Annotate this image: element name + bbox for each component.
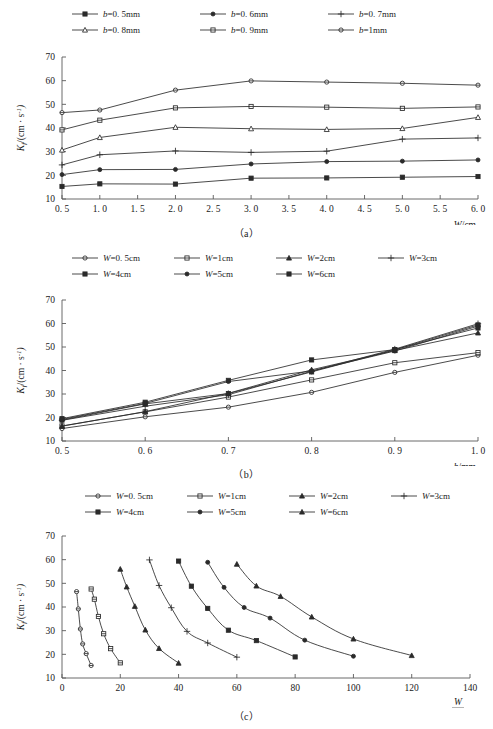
marker-open-triangle (476, 115, 481, 120)
x-axis-title: Wb (452, 697, 464, 708)
marker-filled-triangle (234, 562, 239, 567)
x-tick-label: 1. 0 (471, 446, 486, 456)
series-line (208, 562, 354, 656)
data-series (60, 158, 480, 177)
caption-b: （b） (0, 466, 493, 481)
data-series (60, 326, 480, 421)
marker-filled-circle (310, 369, 314, 373)
data-series (60, 79, 480, 115)
caption-a: （a） (0, 225, 493, 240)
legend-item[interactable]: W=5cm (174, 269, 233, 279)
x-tick-label: 0. 7 (221, 446, 236, 456)
y-tick-label: 30 (46, 389, 56, 399)
x-tick-label: 0. 8 (304, 446, 319, 456)
x-tick-label: 120 (405, 683, 420, 693)
marker-filled-circle (198, 510, 202, 514)
data-series (74, 590, 93, 668)
legend-item[interactable]: W=4cm (85, 507, 144, 517)
marker-filled-triangle (309, 614, 314, 619)
y-tick-label: 60 (46, 555, 56, 565)
legend-item[interactable]: b=0. 9mm (200, 25, 268, 35)
y-tick-label: 40 (46, 366, 56, 376)
x-tick-label: 3. 5 (282, 204, 297, 214)
legend-item[interactable]: b=0. 8mm (72, 25, 140, 35)
legend-label: W=3cm (409, 253, 437, 263)
chart-c-svg: W=0. 5cmW=1cmW=2cmW=3cmW=4cmW=5cmW=6cm10… (0, 488, 493, 708)
legend-label: W=4cm (103, 269, 131, 279)
y-tick-label: 20 (46, 171, 56, 181)
legend-label: W=2cm (307, 253, 335, 263)
marker-filled-circle (325, 160, 329, 164)
legend-item[interactable]: W=6cm (276, 269, 335, 279)
chart-b-svg: W=0. 5cmW=1cmW=2cmW=3cmW=4cmW=5cmW=6cm10… (0, 248, 493, 466)
legend-item[interactable]: b=0. 5mm (72, 9, 140, 19)
data-series (60, 351, 480, 429)
y-axis-title: Kf/(cm · s-1) (15, 347, 28, 394)
series-line (62, 326, 478, 419)
legend-label: W=0. 5cm (103, 253, 140, 263)
marker-filled-square (83, 272, 87, 276)
legend-item[interactable]: W=1cm (174, 253, 233, 263)
legend-item[interactable]: W=5cm (187, 507, 246, 517)
legend-item[interactable]: W=0. 5cm (85, 491, 153, 501)
marker-filled-square (98, 182, 102, 186)
series-line (62, 177, 478, 187)
marker-filled-circle (476, 158, 480, 162)
series-line (62, 117, 478, 150)
y-axis-title: Kf/(cm · s-1) (15, 105, 28, 152)
legend-item[interactable]: b=0. 7mm (328, 9, 396, 19)
marker-filled-square (226, 628, 230, 632)
legend-item[interactable]: b=1mm (328, 25, 387, 35)
marker-filled-square (83, 12, 87, 16)
legend-item[interactable]: W=2cm (276, 253, 335, 263)
x-tick-label: 40 (174, 683, 184, 693)
x-tick-label: 0. 5 (55, 446, 70, 456)
marker-filled-circle (351, 654, 355, 658)
marker-filled-circle (185, 272, 189, 276)
marker-filled-triangle (132, 604, 137, 609)
chart-a-svg: b=0. 5mmb=0. 6mmb=0. 7mmb=0. 8mmb=0. 9mm… (0, 0, 493, 225)
x-tick-label: 5. 5 (433, 204, 448, 214)
marker-filled-square (254, 639, 258, 643)
marker-filled-square (60, 184, 64, 188)
marker-filled-circle (173, 167, 177, 171)
legend-label: W=1cm (205, 253, 233, 263)
y-tick-label: 20 (46, 650, 56, 660)
data-series (60, 330, 481, 428)
x-tick-label: 60 (232, 683, 242, 693)
legend-item[interactable]: W=0. 5cm (72, 253, 140, 263)
legend-label: b=0. 9mm (231, 25, 268, 35)
legend-item[interactable]: W=2cm (289, 491, 348, 501)
legend-label: b=0. 8mm (103, 25, 140, 35)
chart-legend: W=0. 5cmW=1cmW=2cmW=3cmW=4cmW=5cmW=6cm (72, 253, 437, 279)
marker-filled-triangle (143, 627, 148, 632)
data-series (234, 562, 414, 658)
legend-item[interactable]: W=6cm (289, 507, 348, 517)
y-tick-label: 70 (46, 531, 56, 541)
legend-label: W=4cm (116, 507, 144, 517)
x-axis-title: W/cm (454, 220, 477, 225)
marker-filled-triangle (476, 330, 481, 335)
svg-text:Kf/(cm · s-1): Kf/(cm · s-1) (15, 347, 28, 394)
legend-item[interactable]: W=3cm (391, 491, 450, 501)
legend-item[interactable]: W=4cm (72, 269, 131, 279)
x-tick-label: 1. 0 (93, 204, 108, 214)
legend-item[interactable]: b=0. 6mm (200, 9, 268, 19)
legend-item[interactable]: W=1cm (187, 491, 246, 501)
marker-filled-square (400, 175, 404, 179)
marker-filled-square (310, 358, 314, 362)
marker-filled-circle (249, 162, 253, 166)
marker-filled-square (226, 378, 230, 382)
legend-label: W=0. 5cm (116, 491, 153, 501)
marker-filled-circle (268, 616, 272, 620)
series-line (62, 355, 478, 428)
marker-filled-circle (206, 560, 210, 564)
legend-item[interactable]: W=3cm (378, 253, 437, 263)
data-series (206, 560, 356, 658)
marker-filled-square (249, 176, 253, 180)
x-tick-label: 5. 0 (395, 204, 410, 214)
x-tick-label: 4. 0 (320, 204, 335, 214)
x-tick-label: 20 (116, 683, 126, 693)
data-series (89, 587, 122, 665)
x-tick-label: 6. 0 (471, 204, 486, 214)
